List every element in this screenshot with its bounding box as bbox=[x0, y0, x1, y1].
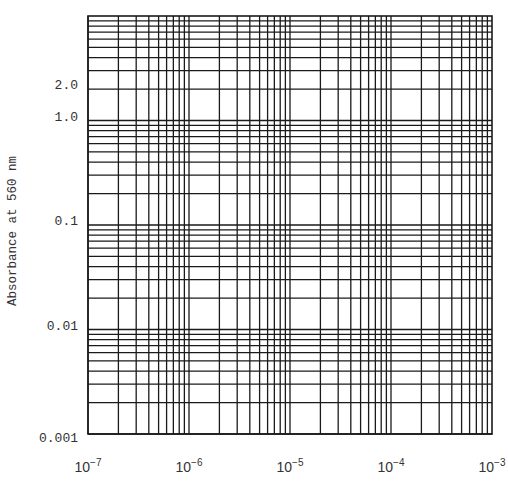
y-tick-label: 2.0 bbox=[18, 79, 78, 93]
y-tick-label: 0.01 bbox=[18, 320, 78, 334]
y-axis-title: Absorbance at 560 nm bbox=[6, 156, 20, 306]
grid-lines bbox=[88, 16, 492, 434]
y-tick-label: 0.001 bbox=[18, 432, 78, 446]
x-tick-label: 10−3 bbox=[462, 455, 508, 475]
y-tick-label: 0.1 bbox=[18, 215, 78, 229]
x-tick-label: 10−7 bbox=[58, 455, 118, 475]
log-log-chart bbox=[0, 0, 508, 494]
x-tick-label: 10−6 bbox=[159, 455, 219, 475]
x-tick-label: 10−4 bbox=[361, 455, 421, 475]
y-tick-label: 1.0 bbox=[18, 111, 78, 125]
x-tick-label: 10−5 bbox=[260, 455, 320, 475]
